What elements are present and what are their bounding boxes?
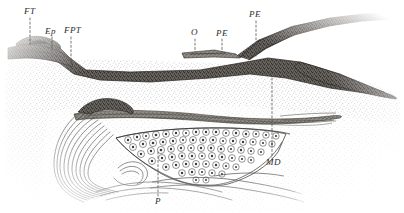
label-fpt: FPT (63, 25, 82, 35)
label-md: MD (265, 157, 281, 167)
label-ft: FT (23, 6, 36, 16)
label-ep: Ep (44, 26, 56, 36)
plate-vignette (0, 0, 404, 213)
label-o: O (191, 27, 198, 37)
anatomical-diagram: FT Ep FPT O PE PE MD P (0, 0, 404, 213)
label-pe-1: PE (215, 28, 228, 38)
label-p: P (154, 196, 161, 206)
figure-container: FT Ep FPT O PE PE MD P (0, 0, 404, 213)
label-pe-2: PE (248, 9, 261, 19)
